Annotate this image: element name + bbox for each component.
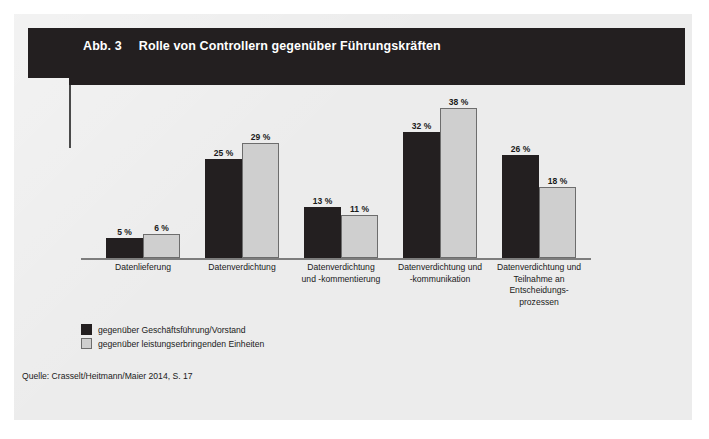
bar-value-label: 13 %	[313, 196, 332, 206]
bar-value-label: 25 %	[214, 148, 233, 158]
bar-4-series-2: 38 %	[440, 108, 477, 258]
source-note: Quelle: Crasselt/Heitmann/Maier 2014, S.…	[22, 371, 193, 381]
bar-3-series-2: 11 %	[341, 215, 378, 258]
bar-value-label: 5 %	[117, 227, 132, 237]
bar-1-series-1: 5 %	[106, 238, 143, 258]
bar-2-series-2: 29 %	[242, 143, 279, 258]
category-label-line: Teilnahme an	[479, 274, 599, 286]
legend-item-2: gegenüber leistungserbringenden Einheite…	[81, 338, 264, 349]
legend-swatch-dark	[81, 324, 92, 335]
chart-plot-area: 5 %25 %13 %32 %26 %6 %29 %11 %38 %18 % D…	[0, 0, 678, 406]
legend-label: gegenüber Geschäftsführung/Vorstand	[98, 325, 246, 335]
bar-value-label: 32 %	[412, 121, 431, 131]
chart-legend: gegenüber Geschäftsführung/Vorstandgegen…	[81, 324, 264, 352]
bar-5-series-1: 26 %	[502, 155, 539, 258]
category-label-line: Entscheidungs-	[479, 285, 599, 297]
category-label-line: Datenverdichtung und	[479, 262, 599, 274]
bar-value-label: 6 %	[154, 223, 169, 233]
figure-container: Abb. 3Rolle von Controllern gegenüber Fü…	[0, 0, 709, 439]
bar-value-label: 38 %	[449, 97, 468, 107]
legend-label: gegenüber leistungserbringenden Einheite…	[98, 339, 264, 349]
legend-item-1: gegenüber Geschäftsführung/Vorstand	[81, 324, 264, 335]
bar-value-label: 29 %	[251, 132, 270, 142]
bar-2-series-1: 25 %	[205, 159, 242, 258]
bar-value-label: 18 %	[548, 176, 567, 186]
bar-1-series-2: 6 %	[143, 234, 180, 258]
bar-5-series-2: 18 %	[539, 187, 576, 258]
bar-value-label: 26 %	[511, 144, 530, 154]
category-labels: DatenlieferungDatenverdichtungDatenverdi…	[0, 262, 678, 332]
x-axis-line	[81, 258, 591, 260]
bars-layer: 5 %25 %13 %32 %26 %6 %29 %11 %38 %18 %	[0, 0, 678, 258]
bar-4-series-1: 32 %	[403, 132, 440, 258]
legend-swatch-light	[81, 338, 92, 349]
bar-value-label: 11 %	[350, 204, 369, 214]
category-label-5: Datenverdichtung undTeilnahme anEntschei…	[479, 262, 599, 308]
category-label-line: prozessen	[479, 297, 599, 309]
bar-3-series-1: 13 %	[304, 207, 341, 258]
